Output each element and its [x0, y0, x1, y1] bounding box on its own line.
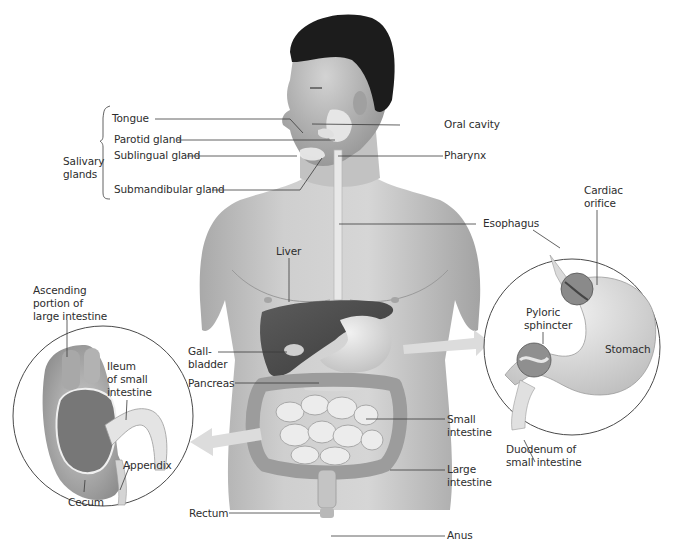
gallbladder: [284, 344, 304, 356]
label-cardiac-orifice-2: orifice: [584, 197, 616, 210]
label-pharynx: Pharynx: [444, 149, 486, 162]
head: [282, 15, 395, 166]
cecum-inset: [13, 326, 193, 506]
anus: [320, 508, 334, 518]
label-large-intestine-2: intestine: [447, 476, 492, 489]
label-ascending-2: portion of: [33, 297, 83, 310]
label-cardiac-orifice-1: Cardiac: [584, 184, 623, 197]
label-duodenum-1: Duodenum of: [506, 443, 576, 456]
label-pyloric-sphincter-1: Pyloric: [526, 306, 560, 319]
label-small-intestine-1: Small: [447, 413, 476, 426]
label-gallbladder-2: bladder: [188, 358, 227, 371]
label-salivary-glands-1: Salivary: [63, 155, 104, 168]
label-salivary-glands-2: glands: [63, 168, 97, 181]
label-ileum-2: of small: [107, 373, 148, 386]
label-rectum: Rectum: [189, 507, 228, 520]
label-pyloric-sphincter-2: sphincter: [524, 319, 572, 332]
anatomy-illustration: [0, 0, 682, 556]
label-anus: Anus: [447, 529, 473, 542]
label-ileum-1: Ileum: [107, 360, 136, 373]
label-parotid-gland: Parotid gland: [114, 133, 182, 146]
label-duodenum-2: small intestine: [506, 456, 582, 469]
label-large-intestine-1: Large: [447, 463, 476, 476]
label-pancreas: Pancreas: [188, 377, 234, 390]
label-ileum-3: intestine: [107, 386, 152, 399]
label-tongue: Tongue: [112, 112, 149, 125]
label-appendix: Appendix: [123, 459, 172, 472]
label-sublingual-gland: Sublingual gland: [114, 149, 200, 162]
rectum: [318, 470, 336, 508]
label-stomach: Stomach: [605, 343, 651, 356]
ear: [353, 91, 367, 115]
label-liver: Liver: [276, 245, 301, 258]
label-cecum: Cecum: [68, 496, 104, 509]
label-ascending-3: large intestine: [33, 310, 107, 323]
esophagus: [334, 150, 342, 300]
label-ascending-1: Ascending: [33, 284, 87, 297]
label-esophagus: Esophagus: [483, 217, 539, 230]
digestive-system-figure: Tongue Parotid gland Sublingual gland Su…: [0, 0, 682, 556]
label-gallbladder-1: Gall-: [188, 345, 212, 358]
label-submandibular-gland: Submandibular gland: [114, 183, 225, 196]
label-small-intestine-2: intestine: [447, 426, 492, 439]
label-oral-cavity: Oral cavity: [444, 118, 500, 131]
